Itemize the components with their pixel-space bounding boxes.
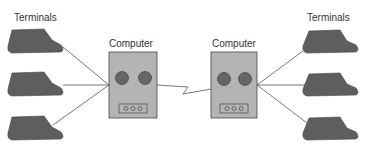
zigzag-link bbox=[157, 85, 211, 94]
terminal-icon bbox=[303, 30, 358, 53]
left-computer-label: Computer bbox=[109, 38, 153, 49]
terminal-icon bbox=[303, 73, 358, 96]
terminal-icon bbox=[303, 117, 358, 140]
control-panel bbox=[220, 104, 248, 113]
terminal-icon bbox=[8, 116, 63, 140]
network-diagram: Terminals Computer Computer Terminals bbox=[0, 0, 370, 150]
terminal-icon bbox=[8, 29, 63, 53]
disk-icon bbox=[218, 73, 231, 86]
right-terminals bbox=[303, 30, 358, 140]
left-connections bbox=[53, 47, 109, 125]
right-terminals-label: Terminals bbox=[307, 12, 350, 23]
disk-icon bbox=[139, 72, 152, 85]
right-computer-label: Computer bbox=[212, 38, 256, 49]
disk-icon bbox=[239, 73, 252, 86]
right-computer bbox=[211, 52, 257, 118]
left-computer bbox=[109, 52, 157, 118]
left-terminals-label: Terminals bbox=[14, 12, 57, 23]
disk-icon bbox=[116, 72, 129, 85]
terminal-icon bbox=[8, 72, 63, 96]
control-panel bbox=[119, 104, 147, 113]
right-connections bbox=[257, 51, 307, 123]
